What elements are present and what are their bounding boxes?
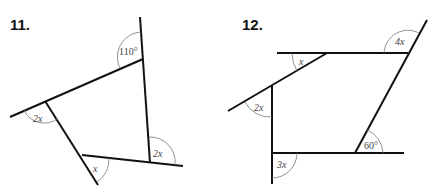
- angle-label-2x-right: 2x: [153, 148, 163, 159]
- diagram-canvas: 11. 110° 2x 2x x 12. 4x x 2x 3x 60°: [0, 0, 430, 194]
- angle-arc-x: [97, 158, 109, 182]
- problem-number-12: 12.: [242, 16, 263, 33]
- left-side-line: [45, 101, 98, 185]
- angle-label-2x: 2x: [254, 102, 264, 113]
- angle-label-110: 110°: [119, 46, 138, 57]
- problem-number-11: 11.: [10, 16, 30, 33]
- angle-arc-x: [292, 53, 297, 71]
- angle-label-4x: 4x: [395, 36, 405, 47]
- problem-12: 12. 4x x 2x 3x 60°: [228, 16, 427, 184]
- upper-left-slant-line: [228, 53, 327, 111]
- top-side-line: [10, 59, 143, 117]
- right-side-line: [140, 17, 150, 163]
- problem-11: 11. 110° 2x 2x x: [10, 16, 183, 185]
- angle-label-x: x: [298, 56, 304, 67]
- angle-label-2x-left: 2x: [33, 113, 43, 124]
- angle-label-3x: 3x: [276, 159, 287, 170]
- right-slant-line: [355, 20, 427, 153]
- angle-label-x: x: [92, 163, 98, 174]
- angle-label-60: 60°: [364, 140, 378, 151]
